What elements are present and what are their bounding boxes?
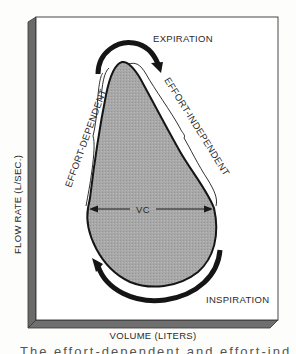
vc-label: VC: [136, 204, 150, 215]
panel-left-bevel: [28, 17, 36, 328]
y-axis-label: FLOW RATE (L/SEC.): [12, 155, 23, 254]
expiration-label: EXPIRATION: [153, 33, 213, 44]
x-axis-label: VOLUME (LITERS): [110, 330, 197, 341]
inspiration-label: INSPIRATION: [206, 294, 269, 305]
flow-volume-diagram: VC EXPIRATION INSPIRATION EFFORT-DEPENDE…: [0, 0, 296, 354]
panel-bottom-bevel: [28, 320, 278, 328]
caption-cutoff: The effort-dependent and effort-independ…: [20, 343, 290, 354]
